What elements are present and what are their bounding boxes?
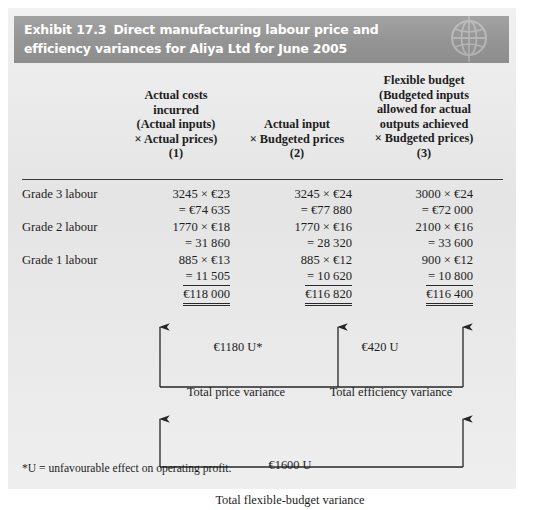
row-2-col-3-result: = 10 800 (351, 268, 473, 284)
exhibit-number: Exhibit 17.3 (24, 22, 106, 37)
row-1-col-1-result: = 31 860 (108, 235, 230, 251)
header-divider (22, 179, 503, 180)
total-col-3: €116 400 (351, 285, 473, 306)
row-0-col-3-expr: 3000 × €24 (351, 186, 473, 202)
column-header-3-line-5: × Budgeted prices) (358, 131, 490, 146)
row-0-col-3: 3000 × €24 = €72 000 (351, 186, 473, 218)
row-label: Grade 1 labour (22, 252, 98, 268)
flexible-budget-variance-label: Total flexible-budget variance (200, 493, 380, 508)
column-header-2-line-1: Actual input (238, 117, 356, 132)
total-col-2-value: €116 820 (305, 285, 352, 306)
total-col-2: €116 820 (230, 285, 352, 306)
table-row: Grade 3 labour 3245 × €23 = €74 635 3245… (8, 186, 516, 219)
row-2-col-1-expr: 885 × €13 (108, 252, 230, 268)
efficiency-variance-label: Total efficiency variance (306, 385, 476, 400)
exhibit-page: Exhibit 17.3Direct manufacturing labour … (0, 0, 534, 510)
efficiency-variance-amount: €420 U (310, 340, 450, 355)
row-1-col-2: 1770 × €16 = 28 320 (230, 219, 352, 251)
row-2-col-2: 885 × €12 = 10 620 (230, 252, 352, 284)
row-1-col-2-result: = 28 320 (230, 235, 352, 251)
column-header-3-line-4: outputs achieved (358, 117, 490, 132)
column-header-1-line-2: incurred (116, 103, 236, 118)
row-1-col-1-expr: 1770 × €18 (108, 219, 230, 235)
row-2-col-2-result: = 10 620 (230, 268, 352, 284)
row-1-col-3-result: = 33 600 (351, 235, 473, 251)
row-2-col-3: 900 × €12 = 10 800 (351, 252, 473, 284)
row-0-col-2: 3245 × €24 = €77 880 (230, 186, 352, 218)
column-header-1-number: (1) (116, 146, 236, 161)
column-header-3-number: (3) (358, 146, 490, 161)
exhibit-content: Actual costs incurred (Actual inputs) × … (8, 66, 516, 486)
row-label: Grade 2 labour (22, 219, 98, 235)
row-2-col-1: 885 × €13 = 11 505 (108, 252, 230, 284)
price-variance-amount: €1180 U* (168, 340, 308, 355)
row-0-col-3-result: = €72 000 (351, 202, 473, 218)
row-1-col-1: 1770 × €18 = 31 860 (108, 219, 230, 251)
exhibit-header-bar: Exhibit 17.3Direct manufacturing labour … (14, 16, 509, 63)
row-2-col-3-expr: 900 × €12 (351, 252, 473, 268)
row-0-col-2-result: = €77 880 (230, 202, 352, 218)
column-header-3-line-3: allowed for actual (358, 102, 490, 117)
total-col-1: €118 000 (108, 285, 230, 306)
variance-table: Grade 3 labour 3245 × €23 = €74 635 3245… (8, 186, 516, 285)
total-col-1-value: €118 000 (183, 285, 230, 306)
column-header-2-number: (2) (238, 146, 356, 161)
column-header-3-line-2: (Budgeted inputs (358, 88, 490, 103)
row-0-col-1: 3245 × €23 = €74 635 (108, 186, 230, 218)
column-header-1-line-3: (Actual inputs) (116, 117, 236, 132)
totals-row: €118 000 €116 820 €116 400 (8, 285, 516, 307)
exhibit-header-text: Exhibit 17.3Direct manufacturing labour … (24, 20, 444, 58)
table-row: Grade 2 labour 1770 × €18 = 31 860 1770 … (8, 219, 516, 252)
table-row: Grade 1 labour 885 × €13 = 11 505 885 × … (8, 252, 516, 285)
row-0-col-1-expr: 3245 × €23 (108, 186, 230, 202)
globe-icon (443, 16, 495, 63)
column-header-1: Actual costs incurred (Actual inputs) × … (116, 88, 236, 161)
row-label: Grade 3 labour (22, 186, 98, 202)
column-header-1-line-1: Actual costs (116, 88, 236, 103)
row-2-col-1-result: = 11 505 (108, 268, 230, 284)
column-header-3: Flexible budget (Budgeted inputs allowed… (358, 73, 490, 161)
row-0-col-1-result: = €74 635 (108, 202, 230, 218)
column-header-1-line-4: × Actual prices) (116, 132, 236, 147)
row-1-col-3-expr: 2100 × €16 (351, 219, 473, 235)
row-1-col-2-expr: 1770 × €16 (230, 219, 352, 235)
column-header-2: Actual input × Budgeted prices (2) (238, 117, 356, 161)
row-2-col-2-expr: 885 × €12 (230, 252, 352, 268)
row-0-col-2-expr: 3245 × €24 (230, 186, 352, 202)
column-header-3-line-1: Flexible budget (358, 73, 490, 88)
row-1-col-3: 2100 × €16 = 33 600 (351, 219, 473, 251)
column-header-2-line-2: × Budgeted prices (238, 132, 356, 147)
footnote: *U = unfavourable effect on operating pr… (22, 462, 231, 476)
flexible-budget-variance-amount: €1600 U (220, 458, 360, 473)
total-col-3-value: €116 400 (426, 285, 473, 306)
price-variance-label: Total price variance (156, 385, 316, 400)
